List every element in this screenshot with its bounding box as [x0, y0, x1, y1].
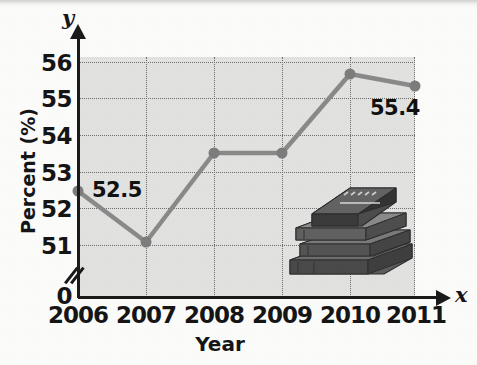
- data-label-2011: 55.4: [370, 96, 420, 120]
- gridline-y-54: [78, 135, 415, 136]
- y-axis-line: [77, 36, 80, 298]
- y-axis-variable-label: y: [62, 5, 74, 30]
- data-label-2006: 52.5: [92, 178, 142, 202]
- x-axis-line: [78, 296, 438, 299]
- line-chart-figure: 52.5 55.4 56 55 54 53 52 51 0 2006 2007 …: [0, 0, 477, 365]
- x-tick-2011: 2011: [376, 302, 456, 328]
- gridline-x-2008: [214, 57, 215, 297]
- gridline-y-53: [78, 172, 415, 173]
- y-tick-56: 56: [28, 50, 72, 76]
- x-axis-variable-label: x: [455, 282, 468, 307]
- y-axis-title: Percent (%): [17, 91, 39, 251]
- gridline-x-2009: [282, 57, 283, 297]
- stack-of-books-illustration: [288, 182, 420, 290]
- gridline-x-2007: [146, 57, 147, 297]
- gridline-y-56: [78, 62, 415, 63]
- x-axis-title: Year: [0, 332, 440, 356]
- gridline-y-55: [78, 98, 415, 99]
